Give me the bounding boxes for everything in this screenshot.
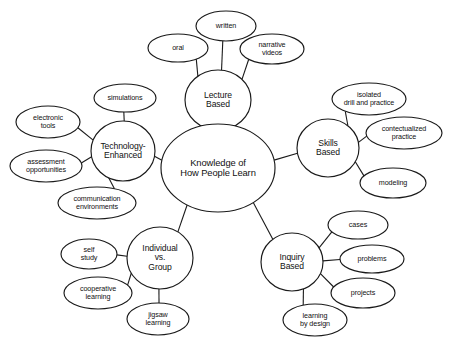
node-technology-enhanced[interactable] xyxy=(91,121,155,181)
edge-skills-based-to-contectualized-practice xyxy=(358,136,366,142)
edge-central-to-individual-vs-group xyxy=(178,205,187,232)
node-self-study[interactable] xyxy=(61,239,117,269)
edge-inquiry-based-to-problems xyxy=(323,260,340,261)
node-oral[interactable] xyxy=(148,34,208,62)
edge-central-to-technology-enhanced xyxy=(155,156,162,160)
concept-map-canvas: writtenoralnarrative videossimulationsel… xyxy=(0,0,450,346)
node-inquiry-based[interactable] xyxy=(261,233,323,291)
node-learning-by-design[interactable] xyxy=(283,304,347,336)
node-communication-environments[interactable] xyxy=(58,187,136,219)
node-contectualized-practice[interactable] xyxy=(366,117,442,149)
node-problems[interactable] xyxy=(340,245,404,273)
node-cooperative-learning[interactable] xyxy=(64,277,132,309)
edge-lecture-based-to-oral xyxy=(196,59,198,76)
node-skills-based[interactable] xyxy=(297,119,359,177)
edge-individual-vs-group-to-self-study xyxy=(117,255,127,256)
node-isolated-drill-and-practice[interactable] xyxy=(332,83,406,115)
edge-inquiry-based-to-projects xyxy=(320,274,333,287)
node-central-knowledge-of-how-people-learn[interactable] xyxy=(161,124,275,212)
node-electronic-tools[interactable] xyxy=(16,106,80,138)
node-jigsaw-learning[interactable] xyxy=(127,303,189,335)
edge-central-to-inquiry-based xyxy=(253,203,273,240)
node-modeling[interactable] xyxy=(360,168,426,198)
node-projects[interactable] xyxy=(331,278,395,308)
edge-technology-enhanced-to-assessment-opportunities xyxy=(81,157,91,163)
edge-technology-enhanced-to-electronic-tools xyxy=(78,128,93,140)
node-assessment-opportunities[interactable] xyxy=(10,150,82,182)
edge-lecture-based-to-written xyxy=(222,41,223,70)
edge-individual-vs-group-to-cooperative-learning xyxy=(128,273,132,285)
node-written[interactable] xyxy=(196,11,256,41)
footer-caption-strip: clipped caption text xyxy=(0,334,450,346)
concept-map-svg xyxy=(0,0,450,346)
node-cases[interactable] xyxy=(328,211,388,239)
edge-inquiry-based-to-cases xyxy=(319,232,332,248)
node-lecture-based[interactable] xyxy=(185,70,251,130)
edge-skills-based-to-modeling xyxy=(355,162,364,176)
node-individual-vs-group[interactable] xyxy=(127,227,193,289)
node-simulations[interactable] xyxy=(94,84,156,112)
edge-lecture-based-to-narrative-videos xyxy=(242,59,249,79)
edge-central-to-skills-based xyxy=(274,153,297,160)
node-narrative-videos[interactable] xyxy=(240,34,304,64)
